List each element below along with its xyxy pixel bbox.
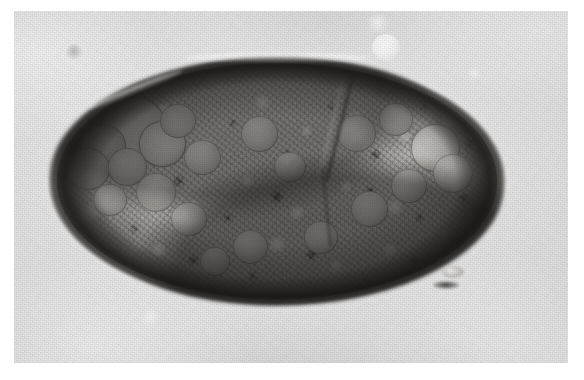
film-grain xyxy=(14,11,568,363)
photomicrograph-plate xyxy=(14,11,568,363)
figure-root xyxy=(0,0,584,380)
figure-caption xyxy=(0,0,1,1)
